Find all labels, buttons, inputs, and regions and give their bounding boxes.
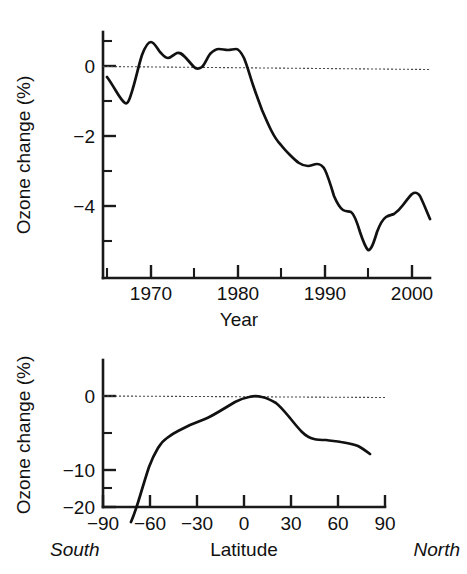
chart-panel-ozone-vs-latitude: 0 −10 −20 −90 −60 −30 0 30 60 90 [0,340,467,574]
x-tick-label-minus90: −90 [87,513,119,534]
y-tick-label-minus4: −4 [73,196,95,217]
y-tick-marks [103,41,116,241]
x-tick-label-1980: 1980 [217,283,259,304]
x-axis-title: Latitude [210,539,278,560]
chart-panel-ozone-vs-year: 0 −2 −4 1970 1980 1990 2000 [0,0,467,340]
y-tick-label-minus2: −2 [73,126,95,147]
x-tick-label-1970: 1970 [130,283,172,304]
x-tick-label-minus60: −60 [134,513,166,534]
x-axis-title: Year [220,309,259,330]
x-tick-label-minus30: −30 [181,513,213,534]
y-tick-label-0: 0 [84,386,95,407]
ozone-depletion-figure: 0 −2 −4 1970 1980 1990 2000 [0,0,467,574]
x-tick-label-1990: 1990 [304,283,346,304]
x-tick-label-90: 90 [374,513,395,534]
y-tick-label-0: 0 [84,56,95,77]
x-tick-label-60: 60 [327,513,348,534]
south-direction-label: South [50,539,100,560]
zero-reference-line [103,67,430,70]
x-tick-marks [103,495,385,507]
x-tick-marks [107,265,412,278]
x-tick-label-2000: 2000 [391,283,433,304]
y-axis-title: Ozone change (%) [13,356,34,514]
y-tick-label-minus10: −10 [63,460,95,481]
ozone-latitude-data-curve [131,396,370,522]
y-tick-marks [103,396,116,507]
ozone-vs-latitude-svg: 0 −10 −20 −90 −60 −30 0 30 60 90 [0,340,467,574]
ozone-vs-year-svg: 0 −2 −4 1970 1980 1990 2000 [0,0,467,340]
north-direction-label: North [414,539,460,560]
ozone-year-data-curve [107,42,430,250]
x-tick-label-30: 30 [280,513,301,534]
y-axis-title: Ozone change (%) [13,76,34,234]
x-tick-label-0: 0 [239,513,250,534]
